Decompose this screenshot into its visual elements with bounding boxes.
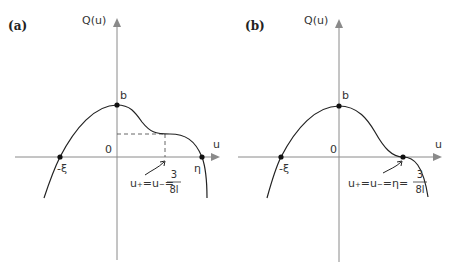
panel-b-y-axis-arrow-icon: [335, 19, 343, 28]
panel-b-annotation-prefix: u₊=u₋=η=: [348, 177, 408, 190]
panel-a-right-root-point: [199, 154, 204, 159]
panel-b-x-axis-label: u: [435, 138, 442, 151]
panel-a-x-axis-arrow-icon: [211, 153, 220, 161]
panel-a-right-root-label: η: [194, 162, 201, 175]
diagram-canvas: (a) Q(u) u 0 b -ξ η u₊=u₋= 3 8l (b): [0, 0, 459, 274]
panel-b-origin-label: 0: [330, 143, 337, 156]
panel-a-left-root-point: [57, 154, 62, 159]
panel-b-double-root-point: [400, 154, 405, 159]
panel-b-annotation-denominator: 8l: [415, 184, 424, 195]
panel-a-annotation-arrow: [145, 162, 164, 175]
panel-b-annotation-arrow: [383, 162, 401, 173]
panel-a-annotation-prefix: u₊=u₋=: [130, 177, 174, 190]
panel-b-tag: (b): [245, 19, 265, 33]
panel-a-annotation-numerator: 3: [171, 169, 177, 180]
panel-b-max-label: b: [342, 89, 349, 102]
panel-a-y-axis-arrow-icon: [113, 18, 121, 27]
panel-a-x-axis-label: u: [213, 138, 220, 151]
panel-b-left-root-label: -ξ: [279, 162, 289, 175]
panel-a-left-root-label: -ξ: [57, 162, 67, 175]
panel-a-annotation-denominator: 8l: [169, 184, 178, 195]
panel-a-tag: (a): [8, 19, 27, 33]
panel-a-origin-label: 0: [105, 143, 112, 156]
panel-a-max-point: [114, 102, 119, 107]
panel-a-max-label: b: [120, 89, 127, 102]
panel-b: (b) Q(u) u 0 b -ξ u₊=u₋=η= 3 8l: [238, 14, 442, 262]
panel-a: (a) Q(u) u 0 b -ξ η u₊=u₋= 3 8l: [8, 14, 220, 260]
panel-b-max-point: [336, 103, 341, 108]
panel-b-y-axis-label: Q(u): [304, 14, 328, 27]
panel-a-y-axis-label: Q(u): [82, 14, 106, 27]
panel-a-curve: [44, 105, 207, 198]
panel-b-left-root-point: [278, 154, 283, 159]
panel-b-x-axis-arrow-icon: [433, 153, 442, 161]
panel-b-annotation-numerator: 3: [417, 169, 423, 180]
